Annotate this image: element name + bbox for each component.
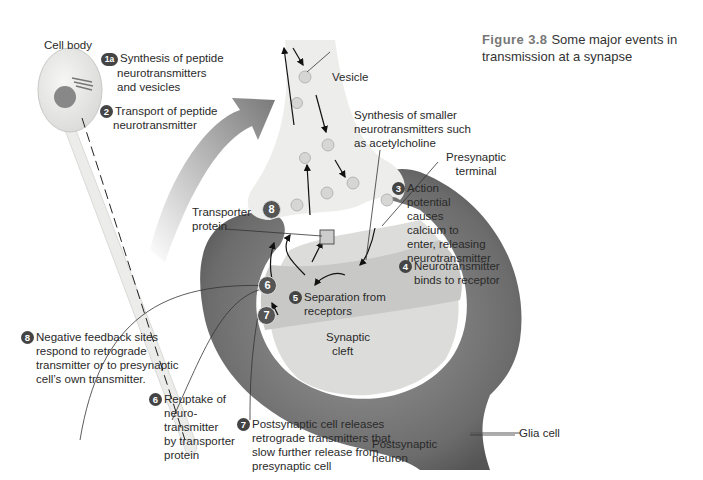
badge-step-7: 7 xyxy=(257,306,276,325)
label-glia-cell: Glia cell xyxy=(519,426,560,440)
label-presynaptic-terminal: Presynapticterminal xyxy=(446,150,506,178)
label-transporter-protein: Transporterprotein xyxy=(192,205,251,233)
label-cell-body: Cell body xyxy=(44,38,92,52)
transporter-protein-shape xyxy=(320,230,334,244)
label-vesicle: Vesicle xyxy=(332,70,368,84)
step-6: 6Reuptake of neuro- transmitter by trans… xyxy=(149,392,235,462)
step-5: 5Separation from receptors xyxy=(289,290,386,318)
badge-step-8: 8 xyxy=(262,200,281,219)
step-2: 2Transport of peptide neurotransmitter xyxy=(100,104,218,132)
step-8: 8Negative feedback sites respond to retr… xyxy=(21,330,179,386)
badge-step-6: 6 xyxy=(258,276,277,295)
figure-caption: Figure 3.8Some major events in transmiss… xyxy=(482,31,677,65)
label-synaptic-cleft: Synapticcleft xyxy=(326,330,370,358)
step-7: 7Postsynaptic cell releases retrograde t… xyxy=(237,417,391,473)
nucleus xyxy=(54,86,76,108)
step-4: 4Neurotransmitter binds to receptor xyxy=(399,259,500,287)
step-1a: 1aSynthesis of peptide neurotransmitters… xyxy=(101,51,224,94)
figure-number: Figure 3.8 xyxy=(482,32,547,47)
step-3: 3Action potential causes calcium to ente… xyxy=(392,181,491,265)
label-synthesis-smaller: Synthesis of smallerneurotransmitters su… xyxy=(354,108,471,150)
